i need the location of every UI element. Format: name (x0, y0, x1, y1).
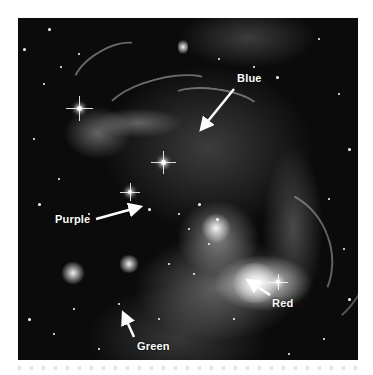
arrow-green (125, 317, 134, 337)
arrow-purple (96, 208, 136, 219)
cropped-caption (18, 366, 358, 370)
arrow-blue (204, 89, 234, 126)
annotation-arrows (0, 0, 373, 375)
label-blue: Blue (237, 72, 262, 84)
label-purple: Purple (55, 213, 90, 225)
label-green: Green (137, 340, 170, 352)
label-red: Red (272, 297, 293, 309)
arrow-red (252, 283, 270, 295)
